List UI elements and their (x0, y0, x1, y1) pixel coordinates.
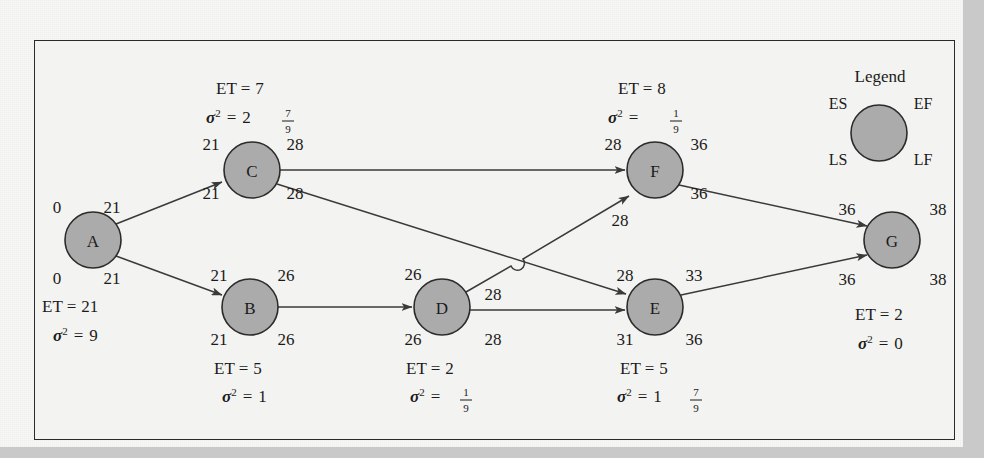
node-g-variance: σ2=0 (858, 333, 903, 353)
node-f-ls: 28 (612, 211, 629, 230)
pert-network-diagram: A B C D E (0, 0, 984, 458)
node-a-ef: 21 (104, 198, 121, 217)
node-d-ef: 28 (485, 285, 502, 304)
node-e-variance-denominator: 9 (693, 402, 699, 414)
node-e-variance-fraction: 7 9 (690, 386, 702, 414)
node-c-variance-numerator: 7 (285, 107, 291, 119)
edge-d-to-f (466, 196, 629, 292)
node-g-lf: 38 (930, 270, 947, 289)
legend-ef-label: EF (914, 95, 933, 112)
node-f-variance-fraction: 1 9 (670, 107, 682, 135)
node-c-et: ET =7 (216, 79, 264, 98)
node-f-label: F (650, 162, 659, 181)
node-a-lf: 21 (104, 269, 121, 288)
node-d-variance-fraction: 1 9 (460, 386, 472, 414)
node-e-variance-numerator: 7 (693, 386, 699, 398)
node-g-et: ET =2 (855, 305, 903, 324)
node-d[interactable]: D (414, 279, 470, 335)
node-d-variance-denominator: 9 (463, 402, 469, 414)
node-a-et: ET =21 (42, 297, 98, 316)
node-g-ef: 38 (930, 200, 947, 219)
node-b[interactable]: B (222, 279, 278, 335)
node-c-label: C (246, 162, 257, 181)
node-f-variance-denominator: 9 (673, 123, 679, 135)
node-f[interactable]: F (627, 142, 683, 198)
node-e-ef: 33 (686, 266, 703, 285)
node-g[interactable]: G (864, 212, 920, 268)
node-g-label: G (886, 232, 898, 251)
node-a-ls: 0 (53, 269, 62, 288)
node-e-ls: 31 (617, 330, 634, 349)
node-d-variance: σ2= (410, 386, 440, 406)
node-c-variance: σ2=2 (206, 107, 251, 127)
node-b-ef: 26 (278, 266, 295, 285)
node-d-label: D (436, 299, 448, 318)
node-e-variance: σ2=1 (617, 386, 662, 406)
node-c-variance-denominator: 9 (285, 123, 291, 135)
node-c-ef: 28 (287, 135, 304, 154)
node-e-lf: 36 (686, 330, 703, 349)
stats-layer: ET =21 σ2=9 ET =5 σ2=1 ET =7 σ2=2 7 (42, 79, 903, 414)
nodes-layer: A B C D E (65, 142, 920, 335)
node-a-label: A (87, 232, 100, 251)
legend-lf-label: LF (914, 151, 933, 168)
node-d-variance-numerator: 1 (463, 386, 469, 398)
node-f-variance-numerator: 1 (673, 107, 679, 119)
node-b-variance: σ2=1 (222, 386, 267, 406)
legend-title: Legend (855, 67, 906, 86)
figure-screenshot: A B C D E (0, 0, 984, 458)
legend-es-label: ES (829, 95, 848, 112)
edge-c-to-e (277, 184, 626, 294)
node-b-ls: 21 (211, 330, 228, 349)
node-f-variance: σ2= (608, 107, 638, 127)
node-b-label: B (244, 299, 255, 318)
legend-node-circle (851, 105, 907, 161)
time-labels-layer: 0 21 0 21 21 26 21 26 21 28 21 28 26 28 … (53, 135, 947, 349)
node-e-et: ET =5 (620, 359, 668, 378)
node-a-variance: σ2=9 (53, 325, 98, 345)
node-b-et: ET =5 (214, 359, 262, 378)
node-f-lf: 36 (691, 184, 708, 203)
node-g-es: 36 (839, 200, 856, 219)
node-e-es: 28 (617, 266, 634, 285)
node-f-ef: 36 (691, 135, 708, 154)
node-b-lf: 26 (278, 330, 295, 349)
node-c-es: 21 (203, 135, 220, 154)
node-a[interactable]: A (65, 212, 121, 268)
node-d-ls: 26 (405, 330, 422, 349)
legend: Legend ES EF LS LF (829, 67, 933, 168)
node-d-lf: 28 (485, 330, 502, 349)
node-c[interactable]: C (224, 142, 280, 198)
node-b-es: 21 (211, 266, 228, 285)
node-f-et: ET =8 (618, 79, 666, 98)
node-f-es: 28 (605, 135, 622, 154)
legend-ls-label: LS (829, 151, 848, 168)
node-e[interactable]: E (627, 279, 683, 335)
node-c-variance-fraction: 7 9 (282, 107, 294, 135)
node-e-label: E (650, 299, 660, 318)
node-d-et: ET =2 (406, 359, 454, 378)
node-g-ls: 36 (839, 270, 856, 289)
node-a-es: 0 (53, 198, 62, 217)
node-c-lf: 28 (287, 184, 304, 203)
edge-a-to-b (116, 256, 222, 295)
node-d-es: 26 (405, 265, 422, 284)
node-c-ls: 21 (203, 184, 220, 203)
